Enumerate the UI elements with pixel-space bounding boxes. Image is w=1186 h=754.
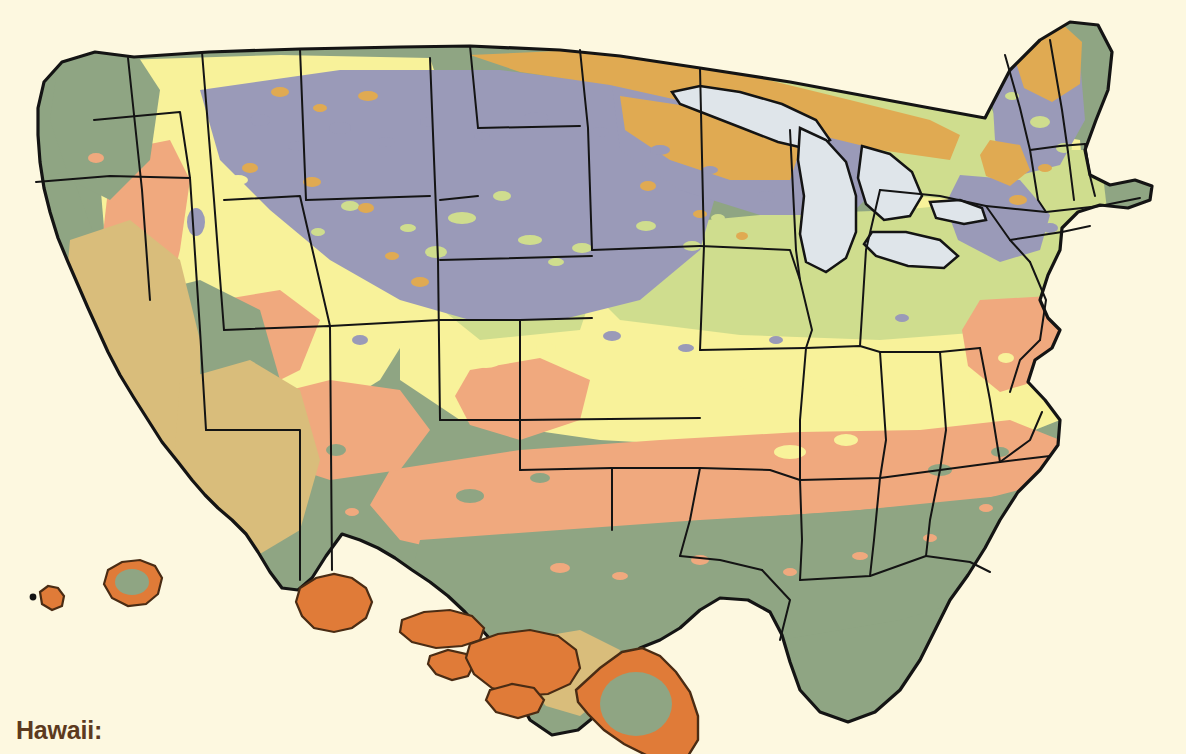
hawaii-label-line1: Hawaii: xyxy=(16,714,186,746)
island-dot xyxy=(30,594,37,601)
hawaii-legend-label: Hawaii: Zones 10 to 11 xyxy=(16,650,186,754)
map-svg xyxy=(0,0,1186,754)
hardiness-zone-map xyxy=(0,0,1186,754)
